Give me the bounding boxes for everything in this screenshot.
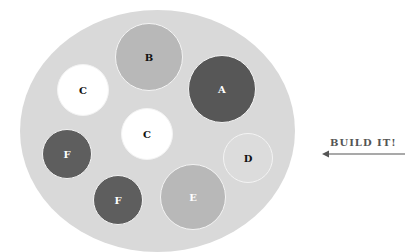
circle-label: B xyxy=(145,52,153,63)
circle-f2: F xyxy=(93,175,143,225)
circle-b: B xyxy=(115,23,183,91)
circle-d: D xyxy=(223,133,273,183)
circle-label: D xyxy=(244,153,253,164)
circle-label: F xyxy=(114,195,121,206)
circle-label: A xyxy=(218,84,226,95)
circle-label: F xyxy=(63,149,70,160)
circle-label: C xyxy=(143,129,151,140)
circle-label: C xyxy=(79,85,87,96)
circle-c1: C xyxy=(57,64,109,116)
build-it-label: BUILD IT! xyxy=(330,137,397,148)
left-arrow-icon xyxy=(322,150,405,158)
circle-a: A xyxy=(188,55,256,123)
circle-e: E xyxy=(160,164,226,230)
circle-c2: C xyxy=(121,108,173,160)
circle-f1: F xyxy=(42,129,92,179)
circle-label: E xyxy=(189,192,197,203)
